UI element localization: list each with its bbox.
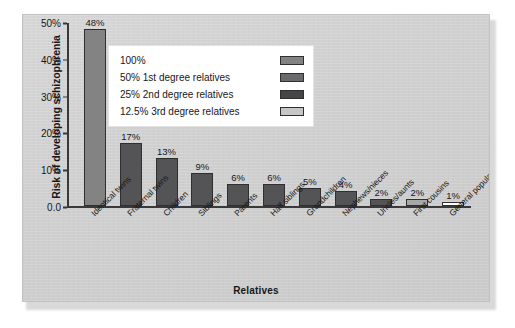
bar-value-label: 6% [267,172,281,183]
scanned-page: Risk of developing schizophrenia Relativ… [0,0,515,328]
y-tick-mark [63,133,67,135]
y-tick-mark [63,59,67,61]
legend-label: 25% 2nd degree relatives [120,89,270,100]
y-tick-label: 10% [41,165,61,176]
legend-swatch [280,56,304,65]
bar: 48% [84,29,106,206]
bar-value-label: 13% [157,146,176,157]
y-tick-label: 20% [41,128,61,139]
figure-panel: Risk of developing schizophrenia Relativ… [22,14,490,302]
bar-value-label: 6% [231,172,245,183]
legend-row: 12.5% 3rd degree relatives [120,103,304,120]
legend-label: 100% [120,55,270,66]
y-axis-title: Risk of developing schizophrenia [50,22,62,212]
y-tick-label: 0.0 [47,202,61,213]
legend-swatch [280,107,304,116]
y-tick-mark [63,170,67,172]
x-axis-title: Relatives [23,285,489,296]
legend-label: 12.5% 3rd degree relatives [120,106,270,117]
legend-row: 100% [120,52,304,69]
legend-swatch [280,90,304,99]
legend-row: 25% 2nd degree relatives [120,86,304,103]
bar-value-label: 2% [410,187,424,198]
chart-legend: 100%50% 1st degree relatives25% 2nd degr… [108,45,314,127]
legend-row: 50% 1st degree relatives [120,69,304,86]
y-axis-line [67,23,69,207]
y-tick-mark [63,23,67,25]
legend-swatch [280,73,304,82]
bar-value-label: 9% [195,161,209,172]
y-tick-mark [63,96,67,98]
y-tick-label: 40% [41,54,61,65]
legend-label: 50% 1st degree relatives [120,72,270,83]
y-tick-mark [63,207,67,209]
bar-value-label: 48% [85,17,104,28]
bar-value-label: 17% [121,131,140,142]
y-tick-label: 30% [41,91,61,102]
y-tick-label: 50% [41,18,61,29]
